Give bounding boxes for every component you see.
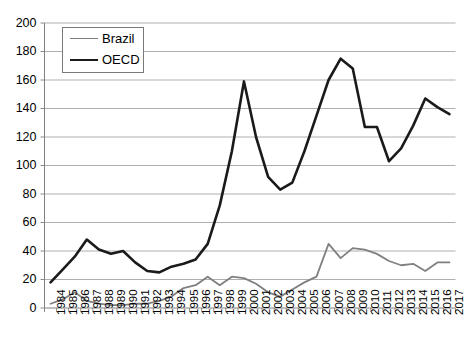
legend-item-oecd: OECD: [63, 49, 143, 70]
x-tick-label: 2002: [273, 289, 285, 315]
y-axis-ticks: [41, 23, 45, 308]
x-tick-label: 1996: [201, 289, 213, 315]
x-tick-label: 1997: [213, 289, 225, 315]
y-tick-label: 200: [7, 17, 37, 30]
x-tick-label: 1999: [237, 289, 249, 315]
x-tick-label: 2000: [249, 289, 261, 315]
x-tick-label: 2001: [261, 289, 273, 315]
x-tick-label: 2009: [358, 289, 370, 315]
y-tick-label: 20: [7, 273, 37, 286]
x-tick-label: 2003: [285, 289, 297, 315]
y-tick-label: 180: [7, 45, 37, 58]
x-tick-label: 2014: [418, 289, 430, 315]
legend-swatch-oecd: [70, 59, 98, 61]
x-tick-label: 1995: [189, 289, 201, 315]
y-tick-label: 0: [7, 302, 37, 315]
x-tick-label: 1985: [68, 289, 80, 315]
x-tick-label: 2012: [394, 289, 406, 315]
x-tick-label: 1990: [128, 289, 140, 315]
y-tick-label: 60: [7, 216, 37, 229]
x-tick-label: 2007: [334, 289, 346, 315]
x-tick-label: 2006: [321, 289, 333, 315]
legend-label-brazil: Brazil: [102, 32, 135, 45]
x-tick-label: 1998: [225, 289, 237, 315]
x-tick-label: 2017: [454, 289, 464, 315]
x-tick-label: 2010: [370, 289, 382, 315]
x-tick-label: 1989: [116, 289, 128, 315]
x-tick-label: 1986: [80, 289, 92, 315]
series-lines: [51, 59, 450, 306]
x-tick-label: 1988: [104, 289, 116, 315]
legend-swatch-brazil: [70, 38, 98, 39]
x-tick-label: 1987: [92, 289, 104, 315]
x-tick-label: 1984: [56, 289, 68, 315]
x-tick-label: 2011: [382, 290, 394, 315]
y-tick-label: 100: [7, 159, 37, 172]
x-tick-label: 1991: [140, 289, 152, 315]
y-tick-label: 160: [7, 74, 37, 87]
x-tick-label: 2013: [406, 289, 418, 315]
line-chart: 020406080100120140160180200 198419851986…: [0, 0, 464, 357]
legend-item-brazil: Brazil: [63, 28, 143, 49]
chart-legend: Brazil OECD: [62, 27, 144, 73]
x-tick-label: 2008: [346, 289, 358, 315]
y-tick-label: 120: [7, 131, 37, 144]
x-tick-label: 1994: [176, 289, 188, 315]
y-tick-label: 140: [7, 102, 37, 115]
legend-label-oecd: OECD: [102, 53, 140, 66]
series-line-oecd: [51, 59, 450, 283]
y-tick-label: 40: [7, 245, 37, 258]
y-tick-label: 80: [7, 188, 37, 201]
